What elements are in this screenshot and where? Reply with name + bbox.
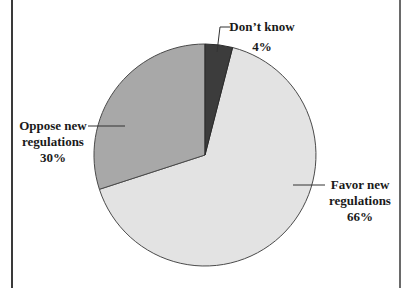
label-favor-pct: 66% (325, 209, 395, 225)
label-oppose-line1: Oppose new (18, 118, 88, 134)
label-dont-know: Don’t know 4% (228, 19, 296, 55)
label-oppose: Oppose new regulations 30% (18, 118, 88, 166)
label-favor-line1: Favor new (325, 177, 395, 193)
label-oppose-line2: regulations (18, 134, 88, 150)
label-favor-line2: regulations (325, 193, 395, 209)
label-dont-know-pct: 4% (228, 39, 296, 55)
label-oppose-pct: 30% (18, 150, 88, 166)
label-favor: Favor new regulations 66% (325, 177, 395, 225)
label-dont-know-text: Don’t know (228, 19, 296, 35)
